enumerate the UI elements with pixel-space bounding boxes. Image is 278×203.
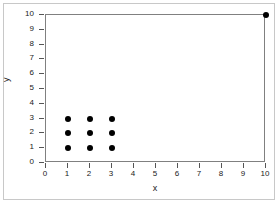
scatter-plot-figure: 012345678910 012345678910 x y [0,0,278,203]
y-tick-label: 10 [0,10,34,18]
y-tick-label: 1 [0,143,34,151]
x-tick-label: 3 [101,170,121,178]
x-tick-mark [89,163,90,168]
plot-area [45,14,265,162]
data-point [87,116,93,122]
y-tick-label: 4 [0,99,34,107]
y-tick-label: 8 [0,40,34,48]
x-tick-label: 1 [57,170,77,178]
x-tick-label: 0 [35,170,55,178]
y-tick-mark [39,118,44,119]
x-tick-mark [111,163,112,168]
x-tick-label: 5 [145,170,165,178]
y-tick-mark [39,162,44,163]
x-tick-mark [45,163,46,168]
x-tick-mark [199,163,200,168]
data-point [87,145,93,151]
y-tick-label: 3 [0,114,34,122]
x-tick-label: 6 [167,170,187,178]
data-point [109,130,115,136]
x-tick-mark [177,163,178,168]
data-point [65,130,71,136]
y-tick-mark [39,58,44,59]
x-tick-label: 2 [79,170,99,178]
data-point [65,116,71,122]
y-tick-mark [39,29,44,30]
x-tick-label: 4 [123,170,143,178]
y-tick-label: 7 [0,54,34,62]
y-tick-mark [39,103,44,104]
data-point [65,145,71,151]
y-tick-mark [39,147,44,148]
x-tick-label: 9 [233,170,253,178]
y-tick-mark [39,14,44,15]
data-point [109,145,115,151]
data-point [263,12,269,18]
y-axis-label: y [2,78,11,83]
y-tick-label: 6 [0,69,34,77]
y-tick-mark [39,73,44,74]
x-tick-mark [265,163,266,168]
x-tick-label: 7 [189,170,209,178]
y-tick-mark [39,88,44,89]
x-tick-mark [243,163,244,168]
data-point [109,116,115,122]
y-tick-mark [39,44,44,45]
x-tick-mark [221,163,222,168]
y-tick-label: 2 [0,128,34,136]
y-tick-label: 9 [0,25,34,33]
x-tick-label: 10 [255,170,275,178]
x-tick-label: 8 [211,170,231,178]
data-point [87,130,93,136]
y-tick-label: 0 [0,158,34,166]
x-tick-mark [133,163,134,168]
y-tick-label: 5 [0,84,34,92]
x-tick-mark [67,163,68,168]
x-axis-label: x [45,184,265,193]
y-tick-mark [39,132,44,133]
x-tick-mark [155,163,156,168]
